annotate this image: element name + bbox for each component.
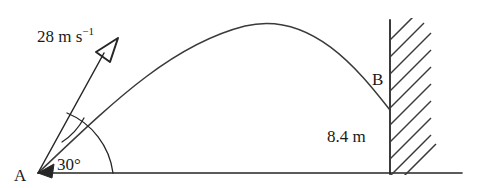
projectile-diagram: 28 m s−1 30° A B 8.4 m [0,0,483,188]
velocity-angle-tick-arc [62,118,84,142]
point-a-label: A [14,167,26,184]
trajectory-curve [38,23,390,173]
wall-height-label: 8.4 m [327,128,366,145]
velocity-arrowhead-icon [96,38,118,62]
launch-angle-value: 30 [57,155,74,174]
launch-speed-label: 28 m s−1 [37,28,94,45]
degree-symbol-icon: ° [74,155,81,174]
point-b-label: B [372,71,383,88]
launch-speed-exponent: −1 [82,25,94,37]
launch-speed-value: 28 m s [37,27,82,46]
launch-angle-label: 30° [57,156,81,173]
wall-hatching [390,14,436,176]
